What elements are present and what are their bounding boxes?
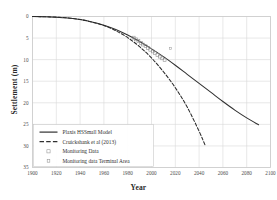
legend-item-label: Monitoring data Terminal Area <box>63 158 131 164</box>
y-tick-label: 20 <box>23 100 29 106</box>
legend-item-label: Monitoring Data <box>63 148 100 154</box>
x-tick-label: 2020 <box>170 170 181 176</box>
y-tick-label: 15 <box>23 78 29 84</box>
x-tick-label: 1900 <box>27 170 38 176</box>
data-point-marker <box>169 47 171 49</box>
chart-canvas: 1900192019401960198020002020204020602080… <box>0 0 277 200</box>
x-tick-label: 2000 <box>146 170 157 176</box>
y-tick-label: 30 <box>23 143 29 149</box>
y-tick-label: 0 <box>26 13 29 19</box>
chart-legend: Plaxis HSSmall ModelCruickshank et al (2… <box>34 125 154 167</box>
y-tick-label: 5 <box>26 35 29 41</box>
settlement-vs-year-chart: 1900192019401960198020002020204020602080… <box>0 0 277 200</box>
series-markers-2 <box>132 36 166 61</box>
x-tick-label: 1940 <box>75 170 86 176</box>
y-tick-label: 25 <box>23 121 29 127</box>
legend-item-label: Plaxis HSSmall Model <box>63 129 113 135</box>
y-tick-label: 10 <box>23 57 29 63</box>
x-tick-label: 1920 <box>51 170 62 176</box>
legend-item-label: Cruickshank et al (2013) <box>63 139 117 146</box>
x-tick-label: 2080 <box>242 170 253 176</box>
y-axis-title: Settlement (m) <box>10 35 19 145</box>
x-axis-title: Year <box>0 183 277 192</box>
x-tick-label: 2040 <box>194 170 205 176</box>
y-tick-label: 35 <box>23 164 29 170</box>
x-tick-label: 1960 <box>99 170 110 176</box>
x-tick-label: 2060 <box>218 170 229 176</box>
series-markers-3 <box>169 47 171 49</box>
x-tick-label: 1980 <box>123 170 134 176</box>
series-line-0 <box>33 17 259 125</box>
x-tick-label: 2100 <box>265 170 276 176</box>
